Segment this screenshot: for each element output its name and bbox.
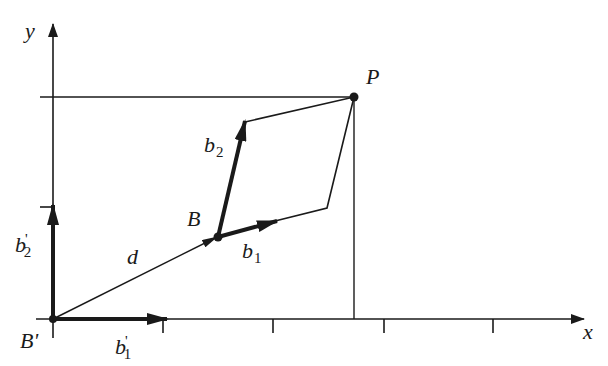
- vector-b2-label: b2: [204, 134, 224, 160]
- vector-b1: [218, 221, 277, 237]
- subscript: 2: [216, 144, 224, 160]
- vector-d-label: d: [127, 246, 138, 268]
- subscript: 2: [24, 244, 32, 260]
- y-axis-label: y: [25, 20, 35, 42]
- subscript: 1: [254, 250, 262, 266]
- point-B: [214, 233, 223, 242]
- diagram-svg: [0, 0, 608, 366]
- x-axis-label: x: [583, 321, 593, 343]
- b-symbol: b: [242, 238, 253, 263]
- point-B-label: B: [187, 208, 200, 230]
- origin-label: B': [20, 330, 38, 352]
- vector-b1-label: b1: [242, 240, 262, 266]
- point-P: [350, 93, 359, 102]
- b-symbol: b: [204, 132, 215, 157]
- point-origin: [49, 315, 57, 323]
- parallelogram: [245, 97, 354, 221]
- vector-b1-prime-label: b'1: [115, 334, 131, 362]
- subscript: 1: [124, 346, 132, 362]
- x-axis-ticks: [163, 319, 493, 333]
- diagram-canvas: y x P B B' d b2 b1 b'2 b'1: [0, 0, 608, 366]
- point-P-label: P: [366, 66, 379, 88]
- vector-b2-prime-label: b'2: [15, 232, 31, 260]
